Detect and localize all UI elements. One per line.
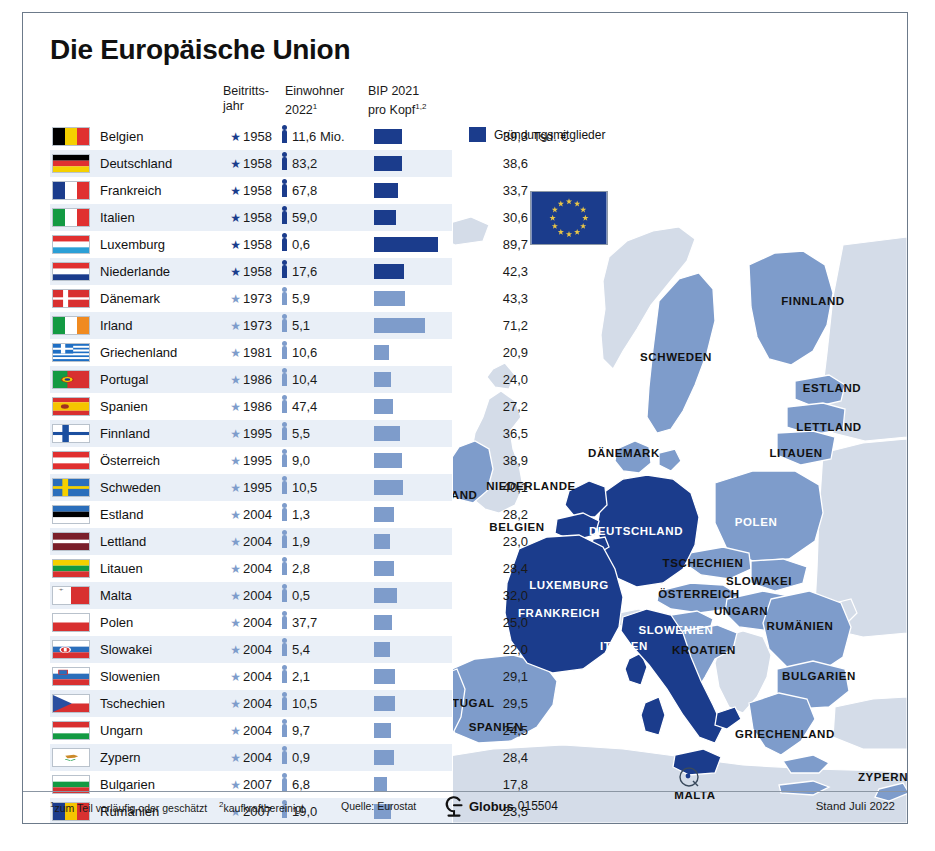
gdp-value: 25,0 <box>468 615 528 630</box>
accession-year: ★1973 <box>208 318 272 333</box>
accession-year: ★1958 <box>208 237 272 252</box>
map-label-luxemburg: LUXEMBURG <box>529 579 609 591</box>
person-icon <box>282 400 287 413</box>
gdp-bar-track <box>374 667 468 686</box>
gdp-value: 36,5 <box>468 426 528 441</box>
star-icon: ★ <box>230 670 241 684</box>
gdp-bar <box>374 453 402 468</box>
table-row: Tschechien★200410,529,5 <box>50 690 452 717</box>
country-name: Bulgarien <box>100 777 208 792</box>
person-icon <box>282 265 287 278</box>
svg-text:✦: ✦ <box>58 588 65 592</box>
footnote-1: 1zum Teil vorläufig oder geschätzt <box>50 800 207 814</box>
table-row: Spanien★198647,427,2 <box>50 393 452 420</box>
map-label-rumänien: RUMÄNIEN <box>767 620 834 632</box>
table-row: Griechenland★198110,620,9 <box>50 339 452 366</box>
star-icon: ★ <box>230 211 241 225</box>
population-value: 37,7 <box>272 615 374 630</box>
map-label-bulgarien: BULGARIEN <box>782 670 856 682</box>
flag-icon-slowenien <box>52 667 90 686</box>
gdp-bar <box>374 777 387 792</box>
gdp-bar <box>374 183 398 198</box>
flag-icon-estland <box>52 505 90 524</box>
flag-icon-litauen <box>52 559 90 578</box>
table-row: Frankreich★195867,833,7 <box>50 177 452 204</box>
gdp-value: 42,3 <box>468 264 528 279</box>
gdp-bar <box>374 129 402 144</box>
flag-icon-österreich <box>52 451 90 470</box>
table-row: Deutschland★195883,238,6 <box>50 150 452 177</box>
table-row: Litauen★20042,828,4 <box>50 555 452 582</box>
country-name: Malta <box>100 588 208 603</box>
country-name: Österreich <box>100 453 208 468</box>
gdp-value: 22,0 <box>468 642 528 657</box>
accession-year: ★1958 <box>208 156 272 171</box>
gdp-bar <box>374 480 403 495</box>
star-icon: ★ <box>230 400 241 414</box>
table-row: Luxemburg★19580,689,7 <box>50 231 452 258</box>
gdp-bar-track <box>374 127 468 146</box>
country-name: Irland <box>100 318 208 333</box>
country-name: Zypern <box>100 750 208 765</box>
star-icon: ★ <box>230 454 241 468</box>
accession-year: ★1986 <box>208 399 272 414</box>
gdp-bar <box>374 561 394 576</box>
eu-flag-icon <box>530 191 608 245</box>
person-icon <box>282 724 287 737</box>
flag-icon-spanien <box>52 397 90 416</box>
gdp-bar-track <box>374 424 468 443</box>
gdp-bar-track <box>374 478 468 497</box>
infographic-poster: IRLANDFINNLANDSCHWEDENESTLANDLETTLANDLIT… <box>0 0 935 851</box>
source-note: Quelle: Eurostat <box>341 800 416 812</box>
gdp-bar <box>374 642 390 657</box>
population-value: 0,9 <box>272 750 374 765</box>
accession-year: ★1958 <box>208 264 272 279</box>
flag-icon-tschechien <box>52 694 90 713</box>
table-row: Irland★19735,171,2 <box>50 312 452 339</box>
star-icon: ★ <box>230 292 241 306</box>
accession-year: ★2004 <box>208 669 272 684</box>
gdp-value: 40,1 <box>468 480 528 495</box>
gdp-bar-track <box>374 694 468 713</box>
person-icon <box>282 454 287 467</box>
map-label-finnland: FINNLAND <box>781 295 845 307</box>
accession-year: ★1995 <box>208 453 272 468</box>
person-icon <box>282 508 287 521</box>
gdp-bar-track <box>374 316 468 335</box>
population-value: 1,9 <box>272 534 374 549</box>
population-value: 10,5 <box>272 696 374 711</box>
star-icon: ★ <box>230 616 241 630</box>
column-header-gdp-per-capita: BIP 2021 pro Kopf1,2 <box>368 84 426 118</box>
star-icon: ★ <box>230 562 241 576</box>
flag-icon-luxemburg <box>52 235 90 254</box>
country-name: Italien <box>100 210 208 225</box>
gdp-value: 28,2 <box>468 507 528 522</box>
person-icon <box>282 778 287 791</box>
population-value: 10,6 <box>272 345 374 360</box>
legend-founding-members: Gründungsmitglieder <box>469 127 605 142</box>
star-icon: ★ <box>230 265 241 279</box>
table-row: Slowakei★20045,422,0 <box>50 636 452 663</box>
gdp-bar <box>374 372 391 387</box>
accession-year: ★1973 <box>208 291 272 306</box>
country-name: Slowakei <box>100 642 208 657</box>
country-name: Griechenland <box>100 345 208 360</box>
population-value: 10,5 <box>272 480 374 495</box>
population-value: 83,2 <box>272 156 374 171</box>
gdp-bar-track <box>374 505 468 524</box>
accession-year: ★2004 <box>208 723 272 738</box>
gdp-bar <box>374 345 389 360</box>
gdp-bar <box>374 237 438 252</box>
population-value: 5,5 <box>272 426 374 441</box>
accession-year: ★2004 <box>208 534 272 549</box>
accession-year: ★1958 <box>208 129 272 144</box>
table-row: Lettland★20041,923,0 <box>50 528 452 555</box>
globus-wordmark: Globus <box>469 799 514 814</box>
map-label-ungarn: UNGARN <box>714 605 768 617</box>
person-icon <box>282 481 287 494</box>
population-value: 0,5 <box>272 588 374 603</box>
gdp-bar-track <box>374 343 468 362</box>
table-row: Belgien★195811,6 Mio.39,3Tsd. € <box>50 123 452 150</box>
person-icon <box>282 643 287 656</box>
population-value: 2,8 <box>272 561 374 576</box>
